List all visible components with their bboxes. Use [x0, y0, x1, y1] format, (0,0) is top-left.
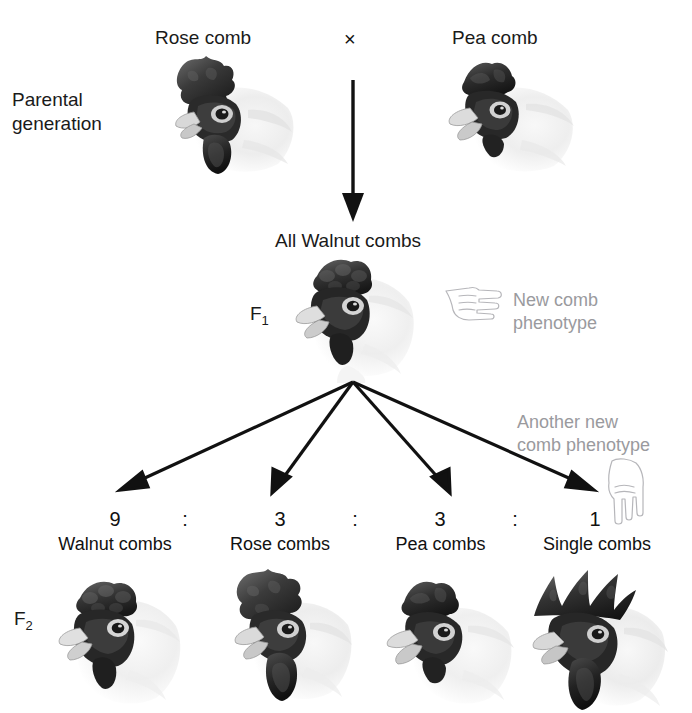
f2-phenotype-walnut-label: Walnut combs: [35, 534, 195, 555]
f1-annotation-line1: New comb: [513, 289, 598, 312]
f2-phenotype-pea-label: Pea combs: [368, 534, 513, 555]
parent-label-pea-comb: Pea comb: [452, 26, 538, 50]
parent-label-rose-comb: Rose comb: [155, 26, 251, 50]
parental-generation-label-line2: generation: [12, 112, 102, 136]
f1-annotation-line2: phenotype: [513, 312, 598, 335]
f2-subscript: 2: [26, 618, 33, 633]
chicken-head-pea-comb-parent: [430, 52, 580, 177]
f2-ratio-walnut: 9: [75, 508, 155, 531]
f1-generation-label: F1: [250, 303, 269, 328]
f1-subscript: 1: [262, 313, 269, 328]
f1-annotation: New comb phenotype: [513, 289, 598, 336]
f2-ratio-pea: 3: [400, 508, 480, 531]
f2-phenotype-rose-label: Rose combs: [205, 534, 355, 555]
ratio-separator-1: :: [175, 508, 195, 531]
f2-phenotype-single-label: Single combs: [518, 534, 676, 555]
f2-annotation-line2: comb phenotype: [517, 434, 650, 457]
parental-generation-label: Parental generation: [12, 88, 102, 137]
chicken-head-walnut-comb-f1: [283, 248, 423, 383]
ratio-separator-3: :: [505, 508, 525, 531]
parental-generation-label-line1: Parental: [12, 88, 102, 112]
f2-annotation-line1: Another new: [517, 411, 650, 434]
hand-pointing-left-icon: [443, 282, 505, 322]
chicken-head-pea-comb-f2: [372, 572, 517, 712]
chicken-head-walnut-comb-f2: [48, 570, 188, 710]
chicken-head-single-comb-f2: [520, 558, 675, 713]
f2-annotation: Another new comb phenotype: [517, 411, 650, 458]
arrow-parental-to-f1: [335, 78, 371, 224]
chicken-head-rose-comb-f2: [212, 565, 357, 710]
ratio-separator-2: :: [345, 508, 365, 531]
cross-symbol: ×: [344, 28, 356, 51]
f2-ratio-single: 1: [555, 508, 635, 531]
f2-generation-label: F2: [14, 608, 33, 633]
f2-ratio-rose: 3: [240, 508, 320, 531]
chicken-head-rose-comb-parent: [148, 52, 298, 177]
